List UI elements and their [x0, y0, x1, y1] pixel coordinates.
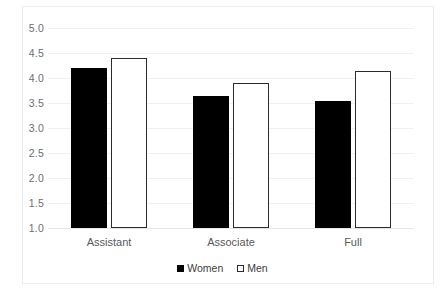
- x-axis-category-label: Associate: [207, 236, 255, 248]
- bar-full-women: [315, 101, 351, 229]
- x-axis-category-label: Assistant: [87, 236, 132, 248]
- bar-assistant-women: [71, 68, 107, 228]
- legend-label-women: Women: [187, 262, 223, 274]
- bar-assistant-men: [111, 58, 147, 228]
- gridline: [48, 228, 414, 229]
- chart-legend: Women Men: [0, 262, 445, 274]
- bar-associate-women: [193, 96, 229, 229]
- x-axis-category-label: Full: [344, 236, 362, 248]
- y-axis-tick-label: 4.5: [10, 47, 44, 59]
- bar-associate-men: [233, 83, 269, 228]
- y-axis-tick-label: 3.0: [10, 122, 44, 134]
- y-axis-tick-label: 2.0: [10, 172, 44, 184]
- y-axis-tick-label: 1.0: [10, 222, 44, 234]
- y-axis-tick-label: 5.0: [10, 22, 44, 34]
- y-axis-tick-label: 4.0: [10, 72, 44, 84]
- y-axis-tick-label: 3.5: [10, 97, 44, 109]
- legend-label-men: Men: [247, 262, 267, 274]
- bar-full-men: [355, 71, 391, 229]
- gridline: [48, 53, 414, 54]
- legend-swatch-women-icon: [177, 265, 184, 272]
- legend-swatch-men-icon: [237, 265, 244, 272]
- plot-area: [48, 28, 414, 228]
- bar-chart: 5.04.54.03.53.02.52.01.51.0 AssistantAss…: [0, 0, 445, 298]
- gridline: [48, 28, 414, 29]
- y-axis-tick-label: 2.5: [10, 147, 44, 159]
- y-axis-tick-label: 1.5: [10, 197, 44, 209]
- legend-item-men: Men: [237, 262, 267, 274]
- legend-item-women: Women: [177, 262, 223, 274]
